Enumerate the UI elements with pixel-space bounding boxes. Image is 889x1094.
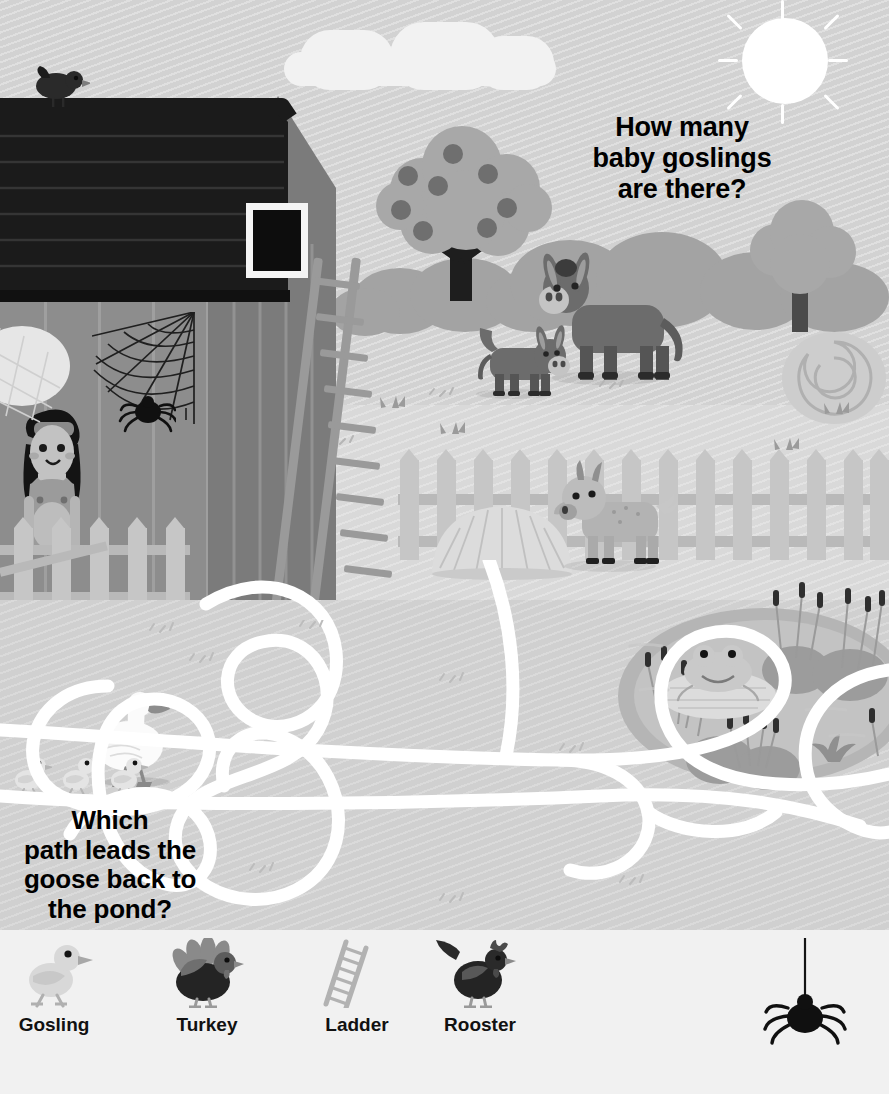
legend-label: Turkey xyxy=(155,1014,259,1036)
bare-tree xyxy=(742,198,862,338)
gosling-icon xyxy=(11,938,97,1008)
question-goslings: How many baby goslings are there? xyxy=(562,112,802,204)
legend-item-turkey[interactable]: Turkey xyxy=(155,938,259,1036)
activity-page: How many baby goslings are there? Which … xyxy=(0,0,889,1094)
hanging-spider xyxy=(118,390,176,434)
question-path: Which path leads the goose back to the p… xyxy=(10,806,210,925)
legend-label: Ladder xyxy=(305,1014,409,1036)
goat xyxy=(548,458,678,574)
barn-side-bushes xyxy=(0,310,100,530)
hay-loft-window-glass xyxy=(253,210,301,271)
legend-item-ladder[interactable]: Ladder xyxy=(305,938,409,1036)
legend-label: Rooster xyxy=(428,1014,532,1036)
crow-icon xyxy=(26,64,90,108)
legend-label: Gosling xyxy=(2,1014,106,1036)
turkey-icon xyxy=(159,938,255,1008)
rooster-icon xyxy=(432,938,528,1008)
hanging-spider-icon xyxy=(760,938,850,1046)
legend-item-gosling[interactable]: Gosling xyxy=(2,938,106,1036)
legend-item-rooster[interactable]: Rooster xyxy=(428,938,532,1036)
ladder-icon xyxy=(314,938,400,1008)
legend-bar: Gosling Turkey xyxy=(0,930,889,1094)
